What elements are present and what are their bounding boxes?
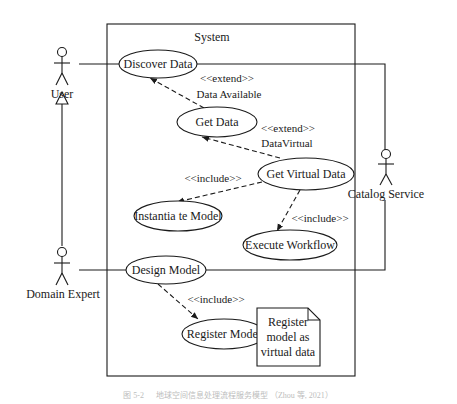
svg-text:model as: model as	[267, 330, 310, 344]
svg-text:Discover Data: Discover Data	[124, 57, 194, 71]
svg-text:Design Model: Design Model	[132, 263, 201, 277]
actor-catalog-service-label: Catalog Service	[348, 187, 424, 201]
actor-domain-expert-icon	[54, 248, 70, 286]
svg-text:Execute Workflow: Execute Workflow	[245, 238, 335, 252]
svg-text:Instantia te Model: Instantia te Model	[134, 209, 222, 223]
include-getvirtual-instantiate	[177, 182, 262, 202]
actor-user-icon	[54, 48, 70, 86]
svg-text:Get Virtual Data: Get Virtual Data	[266, 167, 346, 181]
condition-label-2: DataVirtual	[261, 137, 312, 149]
condition-label-1: Data Available	[197, 88, 262, 100]
include-label-1: <<include>>	[184, 172, 241, 184]
use-case-design-model: Design Model	[126, 256, 206, 284]
use-case-get-virtual-data: Get Virtual Data	[258, 158, 354, 190]
actor-user-label: User	[51, 87, 74, 101]
svg-text:Register Model: Register Model	[187, 327, 262, 341]
use-case-diagram: System <<extend>> Data Available <<exten…	[0, 0, 457, 404]
use-case-register-model: Register Model	[182, 319, 266, 349]
actor-catalog-service-icon	[378, 150, 394, 186]
extend-label-2: <<extend>>	[261, 122, 315, 134]
use-case-discover-data: Discover Data	[119, 50, 197, 78]
figure-caption: 图 5-2 地球空间信息处理流程服务模型 （Zhou 等, 2021）	[123, 390, 333, 400]
use-case-execute-workflow: Execute Workflow	[243, 230, 337, 260]
svg-text:Register: Register	[268, 315, 308, 329]
svg-text:Get Data: Get Data	[196, 115, 240, 129]
svg-text:virtual data: virtual data	[261, 345, 316, 359]
extend-label-1: <<extend>>	[200, 72, 254, 84]
include-label-2: <<include>>	[291, 212, 348, 224]
include-label-3: <<include>>	[187, 293, 244, 305]
actor-domain-expert-label: Domain Expert	[26, 287, 100, 301]
use-case-instantiate-model: Instantia te Model	[134, 201, 222, 231]
include-getvirtual-execute	[277, 190, 300, 231]
system-label: System	[194, 30, 230, 44]
note: Register model as virtual data	[257, 308, 320, 366]
use-case-get-data: Get Data	[177, 107, 257, 137]
